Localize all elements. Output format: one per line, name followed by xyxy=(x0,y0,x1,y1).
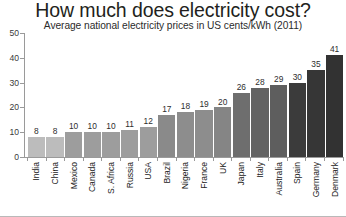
bar-item: 8 xyxy=(28,33,45,157)
x-tick-slot xyxy=(232,157,249,161)
x-tick-mark xyxy=(138,157,139,161)
x-tick-label: UK xyxy=(218,162,227,174)
bar-rect xyxy=(121,130,138,157)
x-tick-mark xyxy=(101,157,102,161)
x-tick-mark xyxy=(305,157,306,161)
bar-item: 18 xyxy=(177,33,194,157)
x-tick-mark xyxy=(268,157,269,161)
x-tick-mark xyxy=(343,157,344,161)
x-tick-slot xyxy=(325,157,342,161)
bar-item: 11 xyxy=(121,33,138,157)
y-axis-labels: 50403020100 xyxy=(0,33,19,157)
bar-item: 28 xyxy=(251,33,268,157)
bar-value-label: 10 xyxy=(88,122,97,130)
bar-item: 30 xyxy=(289,33,306,157)
x-tick-mark xyxy=(324,157,325,161)
bar-value-label: 10 xyxy=(69,122,78,130)
x-label-slot: China xyxy=(46,162,63,216)
bar-rect xyxy=(233,93,250,157)
x-label-slot: Russia xyxy=(121,162,138,216)
x-tick-slot xyxy=(158,157,175,161)
x-tick-mark xyxy=(176,157,177,161)
x-label-slot: Denmark xyxy=(326,162,343,216)
x-label-slot: Japan xyxy=(233,162,250,216)
x-tick-mark xyxy=(287,157,288,161)
x-tick-label: Australia xyxy=(274,162,283,195)
bar-value-label: 19 xyxy=(199,100,208,108)
y-axis-line xyxy=(24,33,25,157)
chart-title: How much does electricity cost? xyxy=(0,0,346,22)
x-label-slot: Mexico xyxy=(65,162,82,216)
x-label-slot: India xyxy=(28,162,45,216)
bar-value-label: 28 xyxy=(255,78,264,86)
x-label-slot: Germany xyxy=(307,162,324,216)
x-tick-slot xyxy=(139,157,156,161)
bar-value-label: 29 xyxy=(274,75,283,83)
bar-item: 12 xyxy=(140,33,157,157)
x-tick-label: Italy xyxy=(256,162,265,178)
x-tick-label: France xyxy=(200,162,209,189)
x-tick-label: Nigeria xyxy=(181,162,190,189)
bar-value-label: 26 xyxy=(237,83,246,91)
bar-value-label: 35 xyxy=(311,60,320,68)
bar-item: 41 xyxy=(326,33,343,157)
x-label-slot: Australia xyxy=(270,162,287,216)
bar-rect xyxy=(270,85,287,157)
bar-rect xyxy=(102,132,119,157)
x-tick-label: Brazil xyxy=(163,162,172,184)
bar-chart: How much does electricity cost? Average … xyxy=(0,0,346,217)
bar-value-label: 18 xyxy=(181,102,190,110)
x-tick-slot xyxy=(306,157,323,161)
y-tick-label: 30 xyxy=(1,78,19,88)
bar-item: 8 xyxy=(46,33,63,157)
x-label-slot: Nigeria xyxy=(177,162,194,216)
x-tick-slot xyxy=(250,157,267,161)
y-tick-label: 50 xyxy=(1,28,19,38)
x-tick-mark xyxy=(157,157,158,161)
bar-item: 10 xyxy=(84,33,101,157)
x-tick-slot xyxy=(65,157,82,161)
bar-rect xyxy=(177,112,194,157)
bar-rect xyxy=(158,115,175,157)
x-tick-slot xyxy=(102,157,119,161)
x-label-slot: Canada xyxy=(84,162,101,216)
x-tick-label: Russia xyxy=(125,162,134,188)
bar-value-label: 8 xyxy=(53,127,58,135)
x-tick-slot xyxy=(83,157,100,161)
bar-rect xyxy=(65,132,82,157)
x-tick-label: Denmark xyxy=(330,162,339,197)
x-tick-mark xyxy=(231,157,232,161)
bar-rect xyxy=(326,55,343,157)
x-tick-slot xyxy=(269,157,286,161)
bar-value-label: 11 xyxy=(125,120,134,128)
bar-value-label: 20 xyxy=(218,98,227,106)
bar-value-label: 8 xyxy=(34,127,39,135)
x-tick-label: Germany xyxy=(312,162,321,197)
y-tick-mark xyxy=(20,132,25,133)
bar-rect xyxy=(195,110,212,157)
y-tick-label: 20 xyxy=(1,102,19,112)
bar-value-label: 10 xyxy=(106,122,115,130)
x-tick-label: Canada xyxy=(88,162,97,192)
x-label-slot: France xyxy=(195,162,212,216)
x-tick-slot xyxy=(121,157,138,161)
x-axis-labels: IndiaChinaMexicoCanadaS. AfricaRussiaUSA… xyxy=(27,162,344,216)
bar-rect xyxy=(46,137,63,157)
bar-rect xyxy=(307,70,324,157)
x-axis-ticks xyxy=(27,157,344,161)
bar-item: 19 xyxy=(195,33,212,157)
x-tick-mark xyxy=(27,157,28,161)
x-label-slot: Spain xyxy=(289,162,306,216)
x-tick-mark xyxy=(120,157,121,161)
x-tick-label: Japan xyxy=(237,162,246,185)
bar-item: 10 xyxy=(102,33,119,157)
x-tick-slot xyxy=(28,157,45,161)
x-tick-label: S. Africa xyxy=(107,162,116,194)
x-tick-slot xyxy=(176,157,193,161)
bar-rect xyxy=(140,127,157,157)
x-tick-mark xyxy=(213,157,214,161)
x-tick-label: India xyxy=(32,162,41,181)
bar-rect xyxy=(28,137,45,157)
x-label-slot: S. Africa xyxy=(102,162,119,216)
x-tick-mark xyxy=(83,157,84,161)
